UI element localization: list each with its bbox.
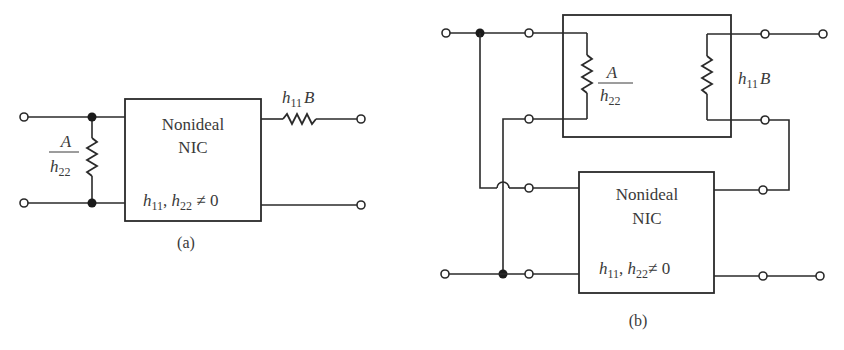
figure-a: Nonideal NIC h11, h22 ≠ 0 A h22 h11B (a) — [20, 88, 365, 252]
wire-b-mid-down — [503, 119, 525, 274]
output-terminal-icon — [357, 115, 365, 123]
wire-b-right-link — [767, 120, 789, 190]
nic-label-line1: Nonideal — [616, 185, 679, 204]
port-terminal-icon — [759, 186, 767, 194]
port-terminal-icon — [525, 115, 533, 123]
figure-b: A h22 h11B Nonideal — [441, 15, 827, 330]
nic-condition-a: h11, h22 ≠ 0 — [143, 191, 218, 213]
nic-condition-b: h11, h22≠ 0 — [599, 259, 670, 281]
shunt-label-numerator: A — [60, 132, 72, 151]
upper-left-label-numerator: A — [606, 63, 618, 82]
input-terminal-icon — [20, 199, 28, 207]
wire-b-left-down — [480, 33, 497, 188]
junction-dot-icon — [88, 113, 97, 122]
upper-left-resistor-icon — [582, 55, 592, 93]
nic-label-line2: NIC — [178, 138, 207, 157]
output-terminal-icon — [816, 272, 824, 280]
upper-right-label: h11B — [738, 69, 771, 91]
junction-dot-icon — [88, 199, 97, 208]
upper-left-label-denominator: h22 — [600, 86, 621, 108]
port-terminal-icon — [525, 270, 533, 278]
nic-label-line2: NIC — [632, 209, 661, 228]
input-terminal-icon — [442, 29, 450, 37]
shunt-label-denominator: h22 — [50, 157, 71, 179]
series-label-a: h11B — [282, 88, 315, 110]
port-terminal-icon — [759, 272, 767, 280]
port-terminal-icon — [525, 29, 533, 37]
series-resistor-a-icon — [283, 114, 316, 124]
output-terminal-icon — [357, 201, 365, 209]
nic-circuit-diagram: Nonideal NIC h11, h22 ≠ 0 A h22 h11B (a) — [0, 0, 844, 350]
caption-a: (a) — [177, 234, 195, 252]
port-terminal-icon — [761, 116, 769, 124]
output-terminal-icon — [819, 30, 827, 38]
shunt-resistor-a-icon — [87, 138, 97, 176]
caption-b: (b) — [629, 312, 648, 330]
port-terminal-icon — [525, 184, 533, 192]
input-terminal-icon — [20, 113, 28, 121]
nic-label-line1: Nonideal — [162, 115, 225, 134]
upper-right-resistor-icon — [702, 56, 712, 94]
input-terminal-icon — [441, 270, 449, 278]
port-terminal-icon — [761, 30, 769, 38]
